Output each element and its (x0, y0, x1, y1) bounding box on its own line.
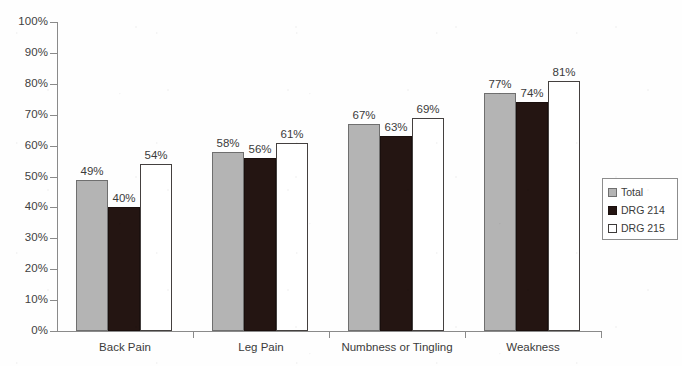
y-axis-label: 50% (0, 171, 48, 183)
legend-label: DRG 214 (621, 205, 665, 216)
y-axis-tick (50, 269, 57, 270)
bar-drg-214-weakness (516, 102, 548, 331)
x-axis-end-tick (601, 331, 602, 338)
bar-drg-215-leg-pain (276, 143, 308, 331)
y-axis-line (57, 22, 58, 332)
y-axis-label: 10% (0, 294, 48, 306)
x-axis-group-separator (465, 331, 466, 338)
x-axis-category-label: Weakness (465, 341, 601, 354)
legend-item-drg-215[interactable]: DRG 215 (608, 220, 673, 237)
bar-total-weakness (484, 93, 516, 331)
bar-drg-214-leg-pain (244, 158, 276, 331)
legend-item-drg-214[interactable]: DRG 214 (608, 202, 673, 219)
bar-value-label: 67% (340, 110, 388, 122)
y-axis-tick (50, 146, 57, 147)
y-axis-label: 40% (0, 201, 48, 213)
legend-swatch-icon (608, 188, 617, 197)
bar-drg-214-numbness-or-tingling (380, 136, 412, 331)
x-axis-category-label: Back Pain (57, 341, 193, 354)
x-axis-category-label: Leg Pain (193, 341, 329, 354)
x-axis-category-label: Numbness or Tingling (329, 341, 465, 354)
y-axis-label: 90% (0, 47, 48, 59)
bar-drg-215-weakness (548, 81, 580, 331)
y-axis-label: 30% (0, 232, 48, 244)
legend-label: DRG 215 (621, 223, 665, 234)
legend-swatch-icon (608, 206, 617, 215)
legend-item-total[interactable]: Total (608, 184, 673, 201)
x-axis-group-separator (193, 331, 194, 338)
x-axis-group-separator (329, 331, 330, 338)
bar-drg-215-numbness-or-tingling (412, 118, 444, 331)
y-axis-tick (50, 300, 57, 301)
y-axis-label: 100% (0, 16, 48, 28)
bar-drg-215-back-pain (140, 164, 172, 331)
bar-total-leg-pain (212, 152, 244, 331)
y-axis-tick (50, 84, 57, 85)
y-axis-label: 0% (0, 325, 48, 337)
chart-legend: TotalDRG 214DRG 215 (602, 178, 678, 240)
y-axis-label: 70% (0, 109, 48, 121)
bar-value-label: 61% (268, 129, 316, 141)
bar-drg-214-back-pain (108, 207, 140, 331)
bar-value-label: 54% (132, 150, 180, 162)
y-axis-tick (50, 207, 57, 208)
bar-total-numbness-or-tingling (348, 124, 380, 331)
legend-swatch-icon (608, 224, 617, 233)
y-axis-tick (50, 115, 57, 116)
y-axis-tick (50, 177, 57, 178)
y-axis-label: 80% (0, 78, 48, 90)
y-axis-tick (50, 22, 57, 23)
y-axis-label: 60% (0, 140, 48, 152)
legend-label: Total (621, 187, 643, 198)
y-axis-tick (50, 238, 57, 239)
y-axis-label: 20% (0, 263, 48, 275)
bar-value-label: 69% (404, 104, 452, 116)
bar-value-label: 49% (68, 166, 116, 178)
bar-chart: 100%90%80%70%60%50%40%30%20%10%0% 49%40%… (0, 0, 682, 366)
y-axis-tick (50, 331, 57, 332)
y-axis-tick (50, 53, 57, 54)
bar-value-label: 81% (540, 67, 588, 79)
